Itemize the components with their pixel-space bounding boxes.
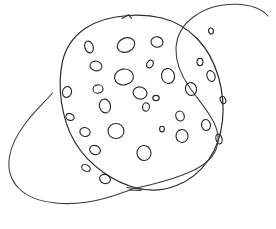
planet-sketch-drawing <box>0 0 276 229</box>
sketch-canvas <box>0 0 276 229</box>
